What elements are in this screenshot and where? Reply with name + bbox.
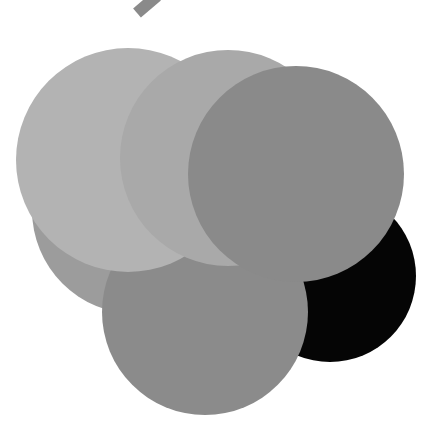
circles-svg bbox=[0, 0, 446, 436]
tab-mark bbox=[137, 0, 157, 13]
overlapping-circles-figure bbox=[0, 0, 446, 436]
circle-right-large bbox=[188, 66, 404, 282]
circle-group bbox=[16, 48, 416, 415]
